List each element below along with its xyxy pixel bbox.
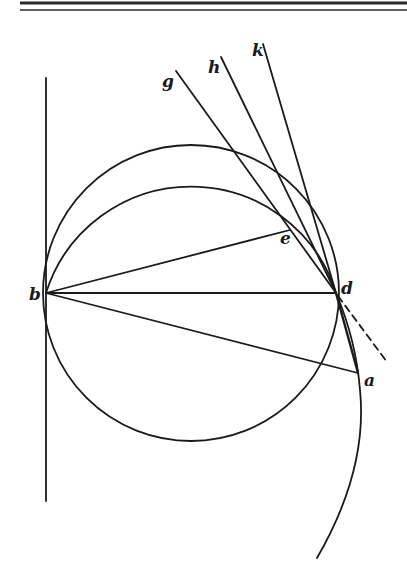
label-e: e <box>280 228 291 248</box>
label-a: a <box>364 370 375 390</box>
curve-da <box>317 293 361 558</box>
line-hd <box>221 57 336 293</box>
label-k: k <box>252 40 264 60</box>
line-kd <box>263 44 336 293</box>
line-be <box>46 230 290 293</box>
line-ba <box>46 293 358 373</box>
label-d: d <box>341 278 353 298</box>
line-gd <box>176 71 336 293</box>
label-h: h <box>208 57 220 77</box>
geometry-figure: g h k b d e a <box>0 0 407 581</box>
chord-da <box>336 293 358 373</box>
label-g: g <box>162 71 174 91</box>
label-b: b <box>29 284 41 304</box>
